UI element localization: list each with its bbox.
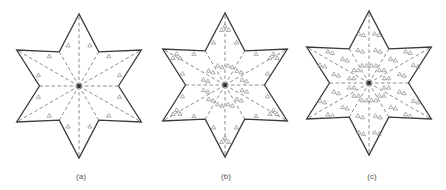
triangle-marker [239,70,243,74]
star-panel-a [17,14,142,158]
triangle-marker [356,48,360,52]
triangle-marker [117,73,121,77]
triangle-marker [332,72,336,76]
triangle-marker [226,28,230,32]
triangle-marker [206,89,210,93]
triangle-marker [345,106,349,110]
triangle-marker [382,68,386,72]
triangle-marker [408,51,412,55]
center-point-icon [367,81,371,85]
triangle-marker [365,98,369,102]
triangle-marker [36,95,40,99]
triangle-marker [174,52,178,56]
triangle-marker [369,63,373,67]
triangle-marker [347,76,351,80]
center-point-icon [77,84,81,88]
triangle-marker [239,98,243,102]
triangle-marker [223,136,227,140]
triangle-marker [235,69,239,73]
triangle-marker [66,124,70,128]
radial-dashed-line [79,52,99,86]
triangle-marker [226,140,230,144]
triangle-marker [374,98,378,102]
triangle-marker [387,76,391,80]
triangle-marker [377,94,381,98]
triangle-marker [226,102,230,106]
triangle-marker [326,49,330,53]
triangle-marker [352,85,356,89]
star-panel-b [163,13,288,157]
triangle-marker [411,63,415,67]
triangle-marker [268,112,272,116]
triangle-marker [235,97,239,101]
triangle-marker [47,114,51,118]
triangle-marker [234,125,238,129]
triangle-marker [275,112,279,116]
triangle-marker [117,95,121,99]
triangle-marker [397,90,401,94]
triangle-marker [244,79,248,83]
triangle-marker [220,104,224,108]
triangle-marker [219,140,223,144]
triangle-marker [377,68,381,72]
radial-dashed-line [17,50,79,86]
triangle-marker [352,94,356,98]
triangle-marker [352,76,356,80]
triangle-marker [265,71,269,75]
triangle-marker [341,57,345,61]
triangle-marker [402,74,406,78]
triangle-marker [361,33,365,37]
radial-dashed-line [225,51,245,85]
triangle-marker [178,56,182,60]
triangle-marker [180,94,184,98]
triangle-marker [347,85,351,89]
triangle-marker [341,105,345,109]
triangle-marker [378,115,382,119]
triangle-marker [360,115,364,119]
triangle-marker [271,52,275,56]
triangle-marker [234,40,238,44]
triangle-marker [254,114,258,118]
triangle-marker [174,108,178,112]
triangle-marker [107,114,111,118]
triangle-marker [207,97,211,101]
triangle-marker [360,98,364,102]
triangle-marker [88,124,92,128]
triangle-marker [240,88,244,92]
triangle-marker [374,63,378,67]
triangle-marker [393,58,397,62]
triangle-marker [171,112,175,116]
radial-dashed-line [369,83,431,119]
star-panel-c [307,11,432,155]
triangle-marker [356,114,360,118]
radial-dashed-line [307,83,369,119]
triangle-marker [216,102,220,106]
triangle-marker [201,88,205,92]
triangle-marker [275,56,279,60]
triangle-marker [207,69,211,73]
triangle-marker [389,57,393,61]
radial-dashed-line [225,49,287,85]
triangle-marker [230,65,234,69]
triangle-marker [360,63,364,67]
triangle-marker [361,132,365,136]
triangle-marker [373,114,377,118]
triangle-marker [356,68,360,72]
triangle-marker [402,91,406,95]
center-point-icon [223,83,227,87]
triangle-marker [201,78,205,82]
triangle-marker [323,100,327,104]
triangle-marker [382,94,386,98]
triangle-marker [336,91,340,95]
triangle-marker [389,105,393,109]
triangle-marker [212,125,216,129]
triangle-marker [326,112,330,116]
triangle-marker [240,78,244,82]
triangle-marker [271,108,275,112]
figure-canvas [0,0,446,190]
triangle-marker [403,49,407,53]
panel-label-b: (b) [221,173,231,181]
triangle-marker [268,56,272,60]
triangle-marker [211,98,215,102]
triangle-marker [220,65,224,69]
